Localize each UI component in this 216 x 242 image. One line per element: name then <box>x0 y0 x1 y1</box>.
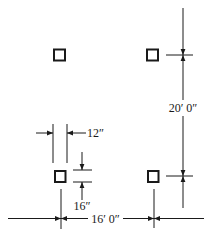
horizontal-spacing-label: 16′ 0″ <box>91 212 120 226</box>
column-width-dimension <box>36 124 86 163</box>
column-width-label: 12″ <box>87 126 104 140</box>
column-depth-dimension <box>73 152 92 200</box>
column-depth-label: 16″ <box>74 199 91 213</box>
column-bottom-right <box>148 171 159 182</box>
column-bottom-left <box>55 171 66 182</box>
column-top-right <box>147 50 158 61</box>
column-top-left <box>54 50 65 61</box>
vertical-spacing-label: 20′ 0″ <box>169 101 198 115</box>
column-plan-drawing: 20′ 0″ 12″ 16″ 16′ 0″ <box>0 0 216 242</box>
